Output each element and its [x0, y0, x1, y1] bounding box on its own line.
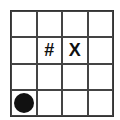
cell-2-0[interactable] — [11, 64, 37, 90]
cell-2-2[interactable] — [62, 64, 88, 90]
cell-2-1[interactable] — [37, 64, 63, 90]
cell-3-3[interactable] — [88, 90, 114, 116]
cell-1-3[interactable] — [88, 37, 114, 63]
cell-2-3[interactable] — [88, 64, 114, 90]
cell-1-1[interactable]: # — [37, 37, 63, 63]
cell-1-2[interactable]: X — [62, 37, 88, 63]
cell-3-1[interactable] — [37, 90, 63, 116]
game-board: # X — [10, 10, 114, 117]
cell-0-0[interactable] — [11, 11, 37, 37]
cell-0-2[interactable] — [62, 11, 88, 37]
cell-1-0[interactable] — [11, 37, 37, 63]
cell-0-1[interactable] — [37, 11, 63, 37]
hash-mark: # — [44, 40, 54, 61]
cell-3-0[interactable] — [11, 90, 37, 116]
black-circle-piece — [14, 93, 34, 113]
cell-0-3[interactable] — [88, 11, 114, 37]
x-mark: X — [69, 40, 81, 61]
cell-3-2[interactable] — [62, 90, 88, 116]
